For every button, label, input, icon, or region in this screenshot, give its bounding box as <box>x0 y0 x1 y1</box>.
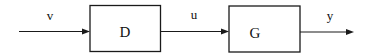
signal-u-label: u <box>191 7 198 22</box>
signal-v: v <box>19 8 90 35</box>
signal-y-label: y <box>327 8 334 23</box>
signal-u: u <box>161 7 230 35</box>
signal-u-arrowhead-icon <box>221 29 229 35</box>
signal-v-label: v <box>47 8 54 23</box>
signal-y-arrowhead-icon <box>346 29 354 35</box>
block-d-label: D <box>120 24 131 40</box>
signal-y: y <box>300 8 354 35</box>
block-g-label: G <box>250 25 261 41</box>
signal-v-arrowhead-icon <box>82 29 90 35</box>
block-diagram: v D u G y <box>0 0 373 55</box>
block-g: G <box>229 6 300 52</box>
block-g-box <box>229 6 300 52</box>
block-d: D <box>90 6 161 52</box>
